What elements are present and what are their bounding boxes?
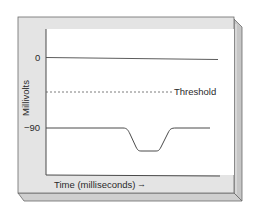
y-axis-label: Millivolts [21, 80, 31, 116]
x-axis-label: Time (milliseconds) [54, 180, 135, 190]
panel-side-face [234, 19, 242, 201]
y-tick-minus-90: −90 [24, 123, 40, 133]
arrow-right-icon: → [137, 180, 146, 189]
threshold-label: Threshold [174, 87, 216, 97]
y-tick-0: 0 [35, 53, 40, 63]
panel-bottom-face [18, 193, 242, 201]
plot-area [46, 29, 234, 175]
diagram-panel: 0 −90 Threshold Millivolts Time (millise… [0, 0, 253, 212]
